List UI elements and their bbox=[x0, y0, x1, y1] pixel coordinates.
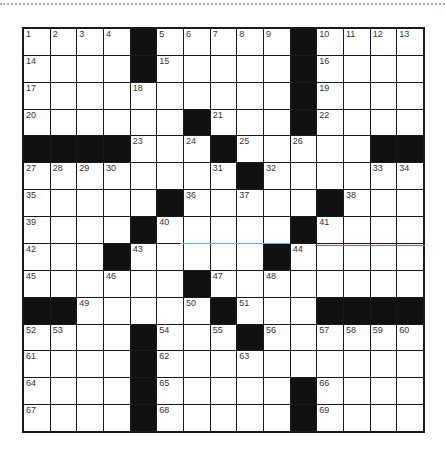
grid-cell[interactable] bbox=[77, 83, 103, 109]
grid-cell[interactable] bbox=[237, 244, 263, 270]
grid-cell[interactable]: 27 bbox=[24, 163, 50, 189]
grid-cell[interactable]: 54 bbox=[157, 325, 183, 351]
grid-cell[interactable]: 53 bbox=[51, 325, 77, 351]
grid-cell[interactable] bbox=[77, 110, 103, 136]
grid-cell[interactable] bbox=[157, 110, 183, 136]
grid-cell[interactable] bbox=[397, 244, 423, 270]
grid-cell[interactable] bbox=[211, 56, 237, 82]
grid-cell[interactable]: 39 bbox=[24, 217, 50, 243]
grid-cell[interactable] bbox=[211, 378, 237, 404]
grid-cell[interactable] bbox=[211, 190, 237, 216]
grid-cell[interactable]: 19 bbox=[317, 83, 343, 109]
grid-cell[interactable] bbox=[291, 163, 317, 189]
grid-cell[interactable] bbox=[371, 244, 397, 270]
grid-cell[interactable]: 21 bbox=[211, 110, 237, 136]
grid-cell[interactable] bbox=[184, 405, 210, 431]
grid-cell[interactable] bbox=[317, 351, 343, 377]
grid-cell[interactable]: 29 bbox=[77, 163, 103, 189]
grid-cell[interactable] bbox=[264, 351, 290, 377]
grid-cell[interactable] bbox=[184, 56, 210, 82]
grid-cell[interactable] bbox=[51, 83, 77, 109]
grid-cell[interactable]: 9 bbox=[264, 29, 290, 55]
grid-cell[interactable]: 68 bbox=[157, 405, 183, 431]
grid-cell[interactable] bbox=[51, 405, 77, 431]
grid-cell[interactable] bbox=[237, 378, 263, 404]
grid-cell[interactable] bbox=[344, 244, 370, 270]
grid-cell[interactable]: 5 bbox=[157, 29, 183, 55]
grid-cell[interactable] bbox=[371, 378, 397, 404]
grid-cell[interactable] bbox=[131, 110, 157, 136]
grid-cell[interactable] bbox=[157, 244, 183, 270]
grid-cell[interactable] bbox=[291, 298, 317, 324]
grid-cell[interactable] bbox=[291, 325, 317, 351]
grid-cell[interactable]: 20 bbox=[24, 110, 50, 136]
grid-cell[interactable] bbox=[264, 217, 290, 243]
grid-cell[interactable] bbox=[184, 378, 210, 404]
grid-cell[interactable] bbox=[397, 405, 423, 431]
grid-cell[interactable] bbox=[77, 271, 103, 297]
grid-cell[interactable] bbox=[237, 56, 263, 82]
grid-cell[interactable] bbox=[184, 83, 210, 109]
grid-cell[interactable] bbox=[157, 271, 183, 297]
grid-cell[interactable] bbox=[237, 217, 263, 243]
grid-cell[interactable]: 67 bbox=[24, 405, 50, 431]
grid-cell[interactable] bbox=[77, 378, 103, 404]
grid-cell[interactable] bbox=[157, 83, 183, 109]
grid-cell[interactable]: 69 bbox=[317, 405, 343, 431]
grid-cell[interactable] bbox=[397, 56, 423, 82]
grid-cell[interactable] bbox=[397, 217, 423, 243]
grid-cell[interactable] bbox=[104, 351, 130, 377]
grid-cell[interactable]: 57 bbox=[317, 325, 343, 351]
grid-cell[interactable]: 42 bbox=[24, 244, 50, 270]
grid-cell[interactable] bbox=[211, 351, 237, 377]
grid-cell[interactable]: 4 bbox=[104, 29, 130, 55]
grid-cell[interactable]: 38 bbox=[344, 190, 370, 216]
grid-cell[interactable]: 41 bbox=[317, 217, 343, 243]
grid-cell[interactable]: 26 bbox=[291, 136, 317, 162]
grid-cell[interactable] bbox=[344, 217, 370, 243]
grid-cell[interactable]: 14 bbox=[24, 56, 50, 82]
grid-cell[interactable] bbox=[211, 83, 237, 109]
grid-cell[interactable] bbox=[264, 56, 290, 82]
grid-cell[interactable] bbox=[264, 136, 290, 162]
grid-cell[interactable]: 28 bbox=[51, 163, 77, 189]
grid-cell[interactable]: 35 bbox=[24, 190, 50, 216]
grid-cell[interactable]: 37 bbox=[237, 190, 263, 216]
grid-cell[interactable]: 7 bbox=[211, 29, 237, 55]
grid-cell[interactable]: 55 bbox=[211, 325, 237, 351]
grid-cell[interactable] bbox=[291, 351, 317, 377]
grid-cell[interactable]: 18 bbox=[131, 83, 157, 109]
grid-cell[interactable] bbox=[131, 298, 157, 324]
grid-cell[interactable] bbox=[291, 190, 317, 216]
grid-cell[interactable] bbox=[264, 378, 290, 404]
grid-cell[interactable] bbox=[184, 244, 210, 270]
grid-cell[interactable] bbox=[371, 271, 397, 297]
grid-cell[interactable]: 63 bbox=[237, 351, 263, 377]
grid-cell[interactable] bbox=[371, 56, 397, 82]
grid-cell[interactable] bbox=[51, 351, 77, 377]
grid-cell[interactable] bbox=[397, 378, 423, 404]
grid-cell[interactable] bbox=[184, 351, 210, 377]
grid-cell[interactable] bbox=[104, 405, 130, 431]
grid-cell[interactable] bbox=[237, 271, 263, 297]
grid-cell[interactable] bbox=[77, 190, 103, 216]
grid-cell[interactable] bbox=[344, 110, 370, 136]
grid-cell[interactable]: 24 bbox=[184, 136, 210, 162]
grid-cell[interactable]: 52 bbox=[24, 325, 50, 351]
grid-cell[interactable] bbox=[344, 136, 370, 162]
grid-cell[interactable] bbox=[51, 217, 77, 243]
grid-cell[interactable] bbox=[104, 217, 130, 243]
grid-cell[interactable] bbox=[104, 83, 130, 109]
grid-cell[interactable] bbox=[77, 351, 103, 377]
grid-cell[interactable] bbox=[104, 325, 130, 351]
grid-cell[interactable] bbox=[104, 56, 130, 82]
grid-cell[interactable] bbox=[184, 163, 210, 189]
grid-cell[interactable]: 15 bbox=[157, 56, 183, 82]
grid-cell[interactable]: 43 bbox=[131, 244, 157, 270]
grid-cell[interactable]: 34 bbox=[397, 163, 423, 189]
grid-cell[interactable] bbox=[131, 190, 157, 216]
grid-cell[interactable]: 12 bbox=[371, 29, 397, 55]
grid-cell[interactable] bbox=[237, 405, 263, 431]
grid-cell[interactable] bbox=[51, 271, 77, 297]
grid-cell[interactable]: 44 bbox=[291, 244, 317, 270]
